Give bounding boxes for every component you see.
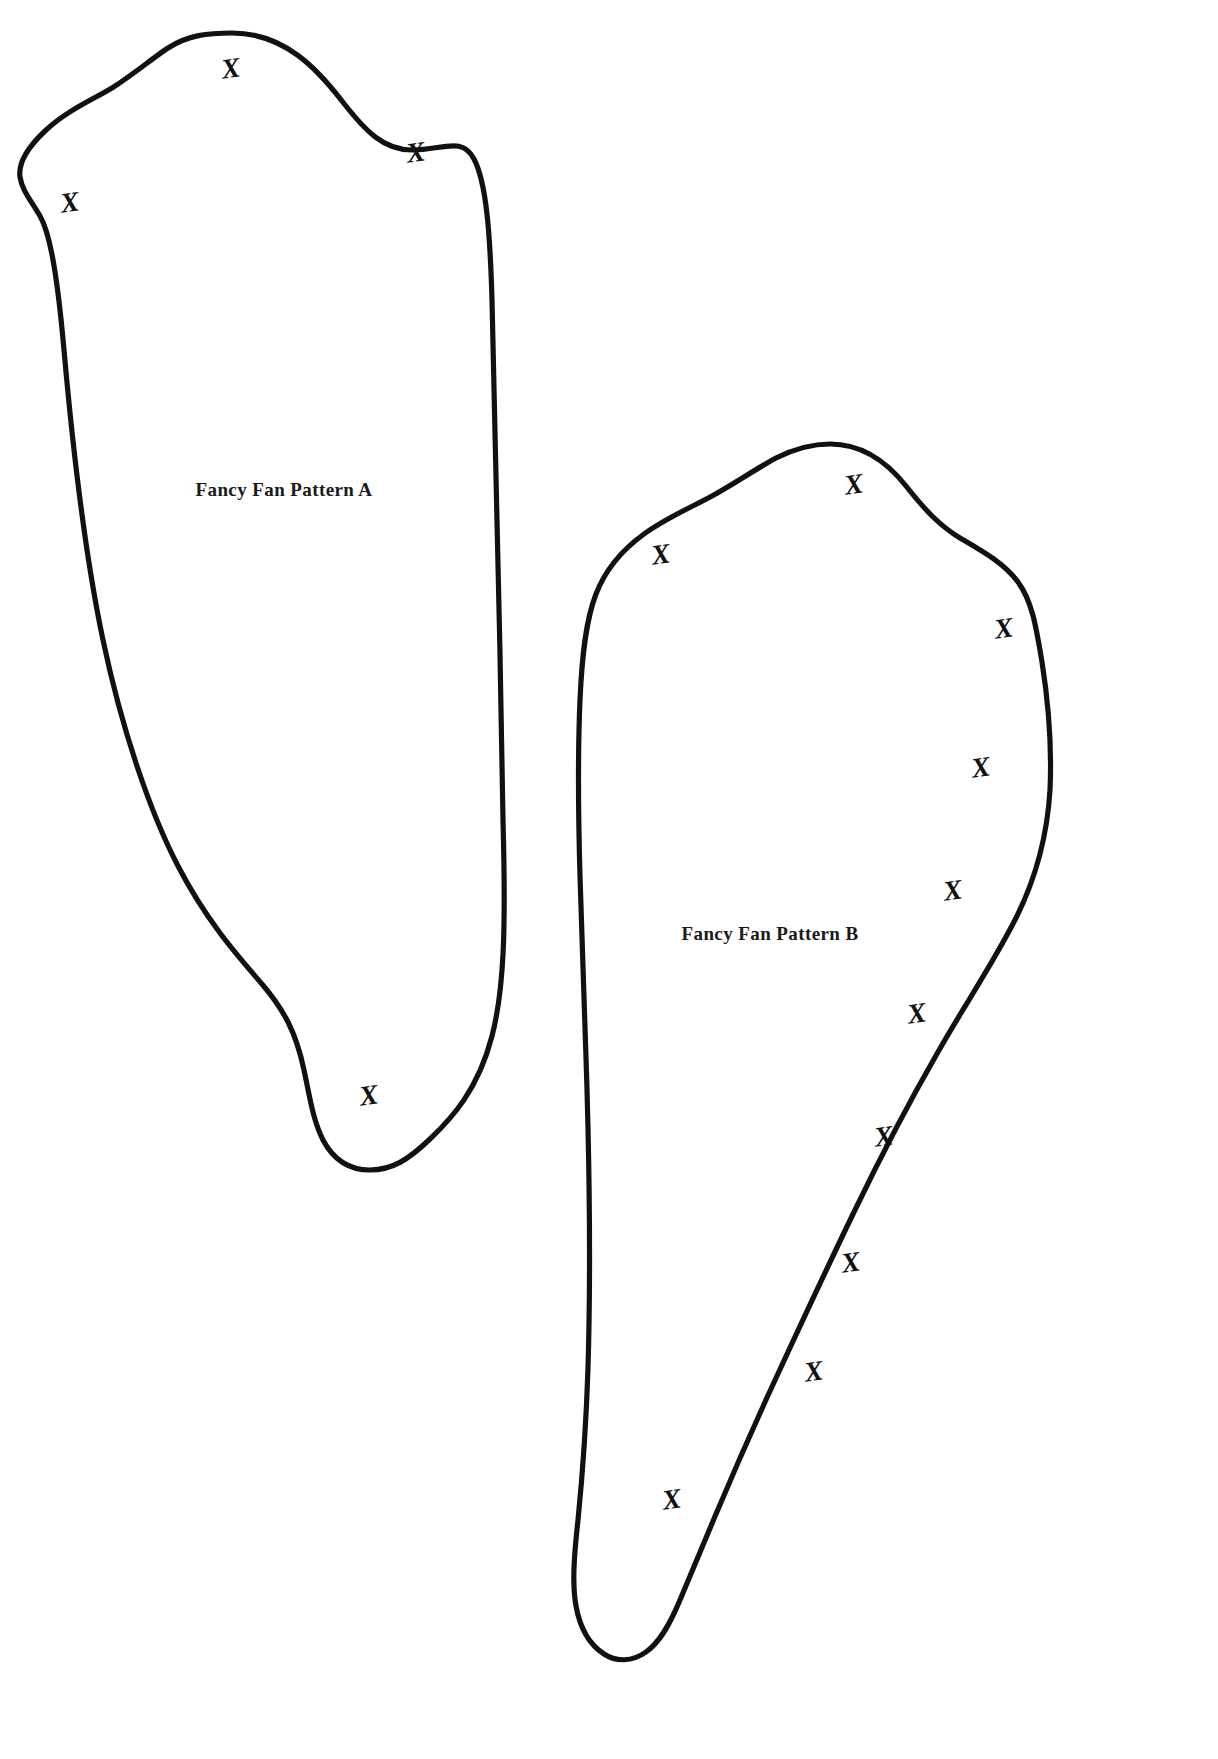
pattern-b-label: Fancy Fan Pattern B xyxy=(682,923,859,944)
pattern-sheet: XXXXFancy Fan Pattern AXXXXXXXXXXFancy F… xyxy=(0,0,1218,1759)
pattern-a-label: Fancy Fan Pattern A xyxy=(196,479,373,500)
pattern-b-group: XXXXXXXXXXFancy Fan Pattern B xyxy=(574,444,1051,1660)
pattern-b-outline xyxy=(574,444,1051,1660)
pattern-canvas: XXXXFancy Fan Pattern AXXXXXXXXXXFancy F… xyxy=(0,0,1218,1759)
pattern-a-group: XXXXFancy Fan Pattern A xyxy=(20,33,505,1170)
pattern-b-x-mark-9: X xyxy=(801,1354,826,1388)
pattern-a-outline xyxy=(20,33,505,1170)
pattern-a-x-mark-2: X xyxy=(403,135,428,169)
pattern-b-x-mark-8: X xyxy=(838,1245,863,1279)
